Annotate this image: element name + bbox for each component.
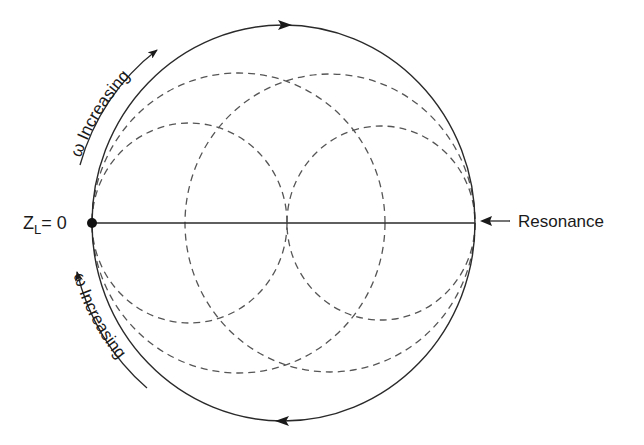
origin-point xyxy=(87,218,97,228)
top-increasing-label: ω Increasing xyxy=(67,66,134,159)
diagram-canvas: ω Increasing ω Increasing ZL= 0 Resonanc… xyxy=(0,0,644,445)
origin-label: ZL= 0 xyxy=(23,213,67,237)
bottom-increasing-label: ω Increasing xyxy=(70,270,130,362)
resonance-label: Resonance xyxy=(518,212,604,231)
